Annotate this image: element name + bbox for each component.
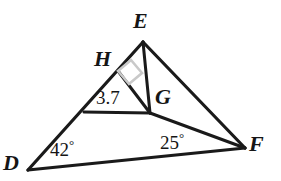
- vertex-label-H: H: [94, 48, 111, 70]
- segment-DG: [84, 112, 150, 113]
- segment-DE: [28, 42, 143, 170]
- angle-label-D: 42: [50, 138, 74, 159]
- segment-EG: [143, 42, 150, 113]
- vertex-label-G: G: [155, 86, 171, 108]
- vertex-label-F: F: [249, 133, 264, 155]
- length-label-DH: 3.7: [96, 88, 120, 107]
- vertex-label-E: E: [133, 10, 148, 32]
- angle-label-F: 25: [160, 131, 184, 152]
- diagram-canvas: DIAGRAM IS NOT TO SCALE E H G D F 3.7 42…: [0, 0, 281, 181]
- vertex-label-D: D: [3, 152, 19, 174]
